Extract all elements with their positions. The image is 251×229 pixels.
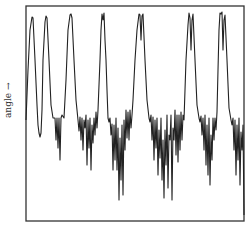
y-axis-label: angle → [3,82,13,118]
waveform-chart [0,0,251,229]
plot-frame [26,6,244,221]
angle-waveform-line [26,12,244,215]
